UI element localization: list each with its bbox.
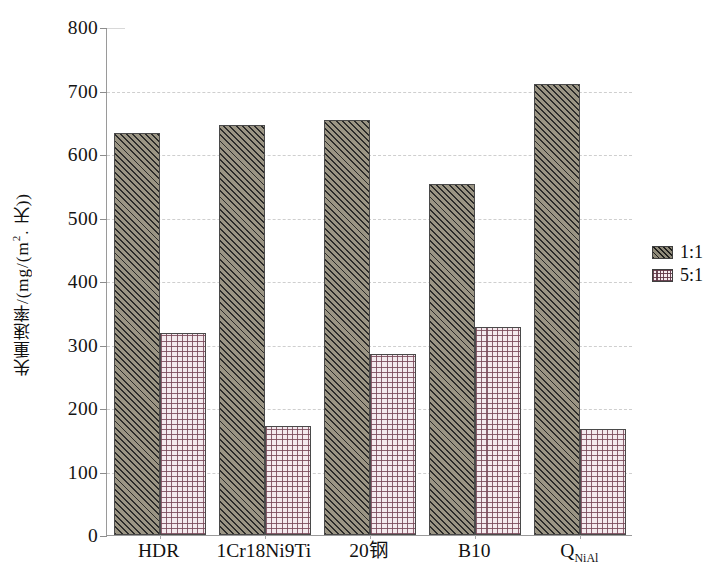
bar-group	[528, 84, 633, 535]
chart-legend: 1:15:1	[652, 243, 703, 284]
bar-5-1	[160, 333, 206, 535]
y-axis-tick	[100, 28, 107, 29]
legend-swatch-icon	[652, 269, 673, 282]
bar-group	[317, 120, 422, 535]
bar-5-1	[475, 327, 521, 535]
x-axis-tick-label: 1Cr18Ni9Ti	[216, 540, 311, 561]
y-axis-tick-label: 0	[88, 526, 98, 546]
plot-area	[106, 28, 632, 536]
y-axis-tick-label: 300	[68, 336, 98, 356]
bar-1-1	[114, 133, 160, 535]
x-axis-tick-label-subscript: NiAl	[574, 551, 598, 565]
y-axis-tick-label: 500	[68, 209, 98, 229]
bar-group	[107, 133, 212, 535]
x-axis-tick	[580, 535, 581, 539]
x-axis-tick-label-text: HDR	[138, 540, 179, 561]
x-axis-tick	[475, 535, 476, 539]
y-axis-tick-label: 800	[68, 18, 98, 38]
x-axis-tick-label-text: 20钢	[349, 540, 389, 561]
bar-1-1	[429, 184, 475, 535]
y-axis-tick-label: 400	[68, 272, 98, 292]
legend-item: 1:1	[652, 243, 703, 261]
y-axis-tick-label: 200	[68, 399, 98, 419]
x-axis-tick	[160, 535, 161, 539]
legend-swatch-icon	[652, 246, 673, 259]
x-axis-tick-label: B10	[458, 540, 491, 561]
x-axis-tick-labels: HDR1Cr18Ni9Ti20钢B10QNiAl	[106, 540, 632, 570]
x-axis-tick-label: HDR	[138, 540, 179, 561]
bar-5-1	[265, 426, 311, 535]
y-axis-tick	[100, 409, 107, 410]
y-axis-tick-label: 100	[68, 463, 98, 483]
y-axis-tick	[100, 92, 107, 93]
legend-label: 5:1	[680, 266, 703, 284]
bar-1-1	[534, 84, 580, 535]
y-axis-tick	[100, 346, 107, 347]
y-axis-tick	[100, 536, 107, 537]
x-axis-tick	[370, 535, 371, 539]
y-axis-tick-label: 600	[68, 145, 98, 165]
bar-1-1	[219, 125, 265, 535]
x-axis-tick-label-text: 1Cr18Ni9Ti	[216, 540, 311, 561]
bar-group	[423, 184, 528, 535]
chart-figure: 失重速率/(mg/(m2. 天)) 0100200300400500600700…	[0, 0, 705, 570]
x-axis-tick	[265, 535, 266, 539]
legend-item: 5:1	[652, 266, 703, 284]
x-axis-tick-label: 20钢	[349, 540, 389, 561]
x-axis-tick-label-text: Q	[560, 540, 574, 561]
bar-1-1	[324, 120, 370, 535]
y-axis-tick	[100, 155, 107, 156]
y-axis-tick	[100, 473, 107, 474]
bar-5-1	[370, 354, 416, 535]
y-axis-tick	[100, 219, 107, 220]
y-axis-tick-label: 700	[68, 82, 98, 102]
y-axis-tick-labels: 0100200300400500600700800	[0, 28, 98, 536]
bar-5-1	[580, 429, 626, 535]
x-axis-tick-label-text: B10	[458, 540, 491, 561]
legend-label: 1:1	[680, 243, 703, 261]
x-axis-tick-label: QNiAl	[560, 540, 598, 565]
bar-group	[212, 125, 317, 535]
y-axis-tick	[100, 282, 107, 283]
gridline	[107, 28, 125, 29]
